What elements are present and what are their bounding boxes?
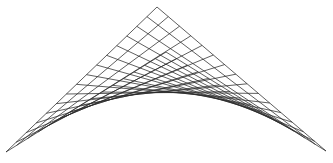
ruling-line-v <box>123 79 281 113</box>
ruling-line-v <box>6 7 157 152</box>
ruling-line-u <box>16 59 177 143</box>
ruling-line-u <box>137 26 305 137</box>
ruling-line-v <box>17 17 169 146</box>
wireframe-grid <box>0 0 333 163</box>
ruling-line-v <box>134 72 292 122</box>
saddle-surface-diagram: Hyperbolic paraboloid wireframe (ruled s… <box>0 0 333 163</box>
ruling-line-u <box>6 52 166 152</box>
ruling-line-u <box>36 72 198 123</box>
ruling-line-u <box>26 65 187 132</box>
ruling-line-v <box>166 52 326 151</box>
ruling-line-v <box>27 26 179 138</box>
ruling-line-u <box>157 7 326 151</box>
ruling-line-u <box>46 78 208 113</box>
